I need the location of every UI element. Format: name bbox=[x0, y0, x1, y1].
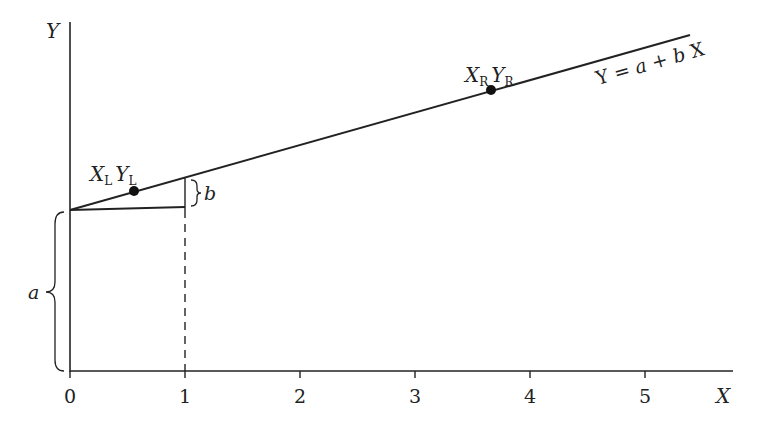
xr-main: X bbox=[463, 63, 480, 87]
x-ticks bbox=[70, 371, 645, 378]
slope-brace bbox=[191, 180, 201, 206]
x-tick-3: 3 bbox=[409, 385, 421, 407]
eq-lhs: Y = bbox=[592, 58, 632, 89]
eq-b: b bbox=[670, 43, 688, 67]
intercept-brace bbox=[46, 212, 64, 371]
regression-line-diagram: 0 1 2 3 4 5 Y X b a XLYL XRYR Y = a + b … bbox=[0, 0, 760, 424]
xl-sub: L bbox=[104, 174, 112, 188]
xr-sub: R bbox=[479, 75, 489, 89]
x-tick-2: 2 bbox=[294, 385, 306, 407]
regression-line bbox=[70, 35, 690, 210]
x-tick-0: 0 bbox=[64, 385, 76, 407]
yr-sub: R bbox=[505, 75, 515, 89]
eq-a: a bbox=[632, 54, 649, 78]
x-tick-1: 1 bbox=[179, 385, 191, 407]
xl-main: X bbox=[88, 162, 105, 186]
x-tick-5: 5 bbox=[639, 385, 651, 407]
intercept-label: a bbox=[28, 281, 39, 303]
equation-label: Y = a + b X bbox=[592, 37, 707, 89]
x-tick-4: 4 bbox=[524, 385, 536, 407]
eq-plus: + bbox=[649, 48, 670, 74]
yl-sub: L bbox=[128, 174, 136, 188]
point-label-left: XLYL bbox=[88, 162, 136, 188]
point-label-right: XRYR bbox=[463, 63, 515, 89]
slope-label: b bbox=[204, 182, 216, 204]
y-axis-label: Y bbox=[46, 19, 61, 43]
run-segment bbox=[70, 207, 185, 210]
eq-x: X bbox=[688, 37, 707, 62]
x-axis-label: X bbox=[714, 384, 731, 408]
